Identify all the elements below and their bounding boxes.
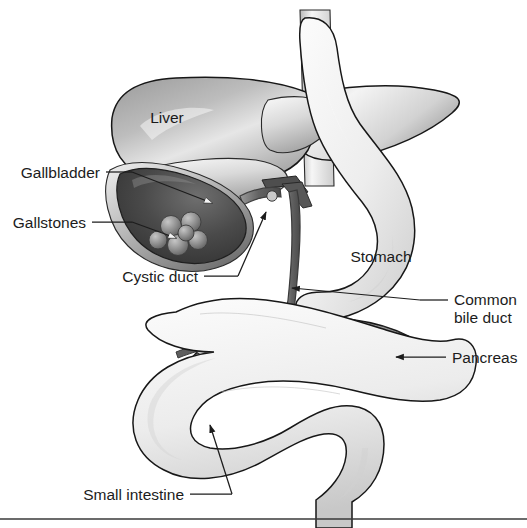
label-common-bile-duct-line2: bile duct: [454, 309, 512, 326]
anatomy-figure: Liver Gallbladder Gallstones Cystic duct…: [0, 0, 527, 528]
biliary-anatomy-illustration: Liver Gallbladder Gallstones Cystic duct…: [0, 0, 527, 528]
label-stomach: Stomach: [350, 248, 411, 265]
label-liver: Liver: [150, 109, 184, 126]
small-intestine: [133, 299, 476, 528]
label-gallstones: Gallstones: [13, 214, 86, 231]
label-pancreas: Pancreas: [452, 349, 518, 366]
label-common-bile-duct-line1: Common: [454, 291, 517, 308]
label-gallbladder: Gallbladder: [21, 164, 100, 181]
label-small-intestine: Small intestine: [83, 486, 184, 503]
label-cystic-duct: Cystic duct: [122, 268, 198, 285]
